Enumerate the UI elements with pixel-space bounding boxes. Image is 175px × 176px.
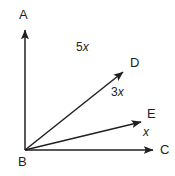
point-label-b: B	[18, 155, 27, 168]
angle-variable: x	[83, 40, 89, 54]
point-label-d: D	[130, 56, 139, 69]
geometry-figure: A B C D E 5x 3x x	[0, 0, 175, 176]
point-label-c: C	[160, 143, 169, 156]
angle-label-abd: 5x	[76, 41, 89, 53]
geometry-canvas	[0, 0, 175, 176]
point-label-a: A	[19, 8, 28, 21]
angle-variable: x	[118, 85, 124, 99]
angle-label-dbe: 3x	[111, 86, 124, 98]
angle-coefficient: 5	[76, 40, 83, 54]
angle-variable: x	[143, 125, 149, 139]
angle-label-ebc: x	[143, 126, 149, 138]
point-label-e: E	[147, 107, 156, 120]
angle-coefficient: 3	[111, 85, 118, 99]
